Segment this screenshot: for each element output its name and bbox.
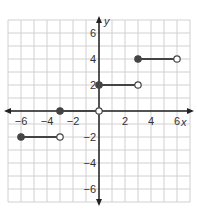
x-tick-label: −4	[41, 115, 54, 127]
closed-endpoint	[135, 56, 141, 62]
open-endpoint	[57, 134, 63, 140]
open-endpoint	[135, 82, 141, 88]
closed-endpoint	[96, 82, 102, 88]
y-tick-label: 4	[90, 53, 96, 65]
open-endpoint	[96, 108, 102, 114]
step-segment	[57, 108, 102, 114]
step-segment	[18, 134, 63, 140]
x-axis-label: x	[180, 116, 187, 128]
step-function-graph: −6−4−2246642−2−4−6 x y	[0, 0, 197, 215]
closed-endpoint	[18, 134, 24, 140]
closed-endpoint	[57, 108, 63, 114]
open-endpoint	[174, 56, 180, 62]
y-axis-label: y	[103, 15, 111, 27]
x-tick-label: 2	[122, 115, 128, 127]
y-tick-label: 6	[90, 27, 96, 39]
step-segment	[135, 56, 180, 62]
x-tick-label: −2	[67, 115, 80, 127]
y-tick-label: 2	[90, 79, 96, 91]
y-tick-label: −6	[83, 183, 96, 195]
x-tick-label: 6	[174, 115, 180, 127]
step-segment	[96, 82, 141, 88]
x-tick-label: 4	[148, 115, 154, 127]
x-tick-label: −6	[15, 115, 28, 127]
y-tick-label: −4	[83, 157, 96, 169]
y-tick-label: −2	[83, 131, 96, 143]
